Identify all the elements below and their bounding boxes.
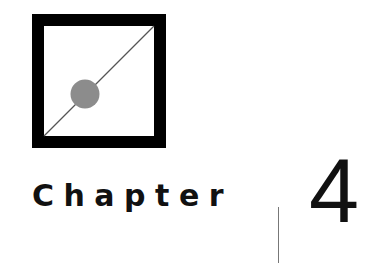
divider-line: [278, 207, 279, 263]
chapter-label: Chapter: [32, 181, 233, 211]
chapter-number: 4: [309, 146, 359, 236]
chapter-logo-icon: [32, 14, 166, 148]
